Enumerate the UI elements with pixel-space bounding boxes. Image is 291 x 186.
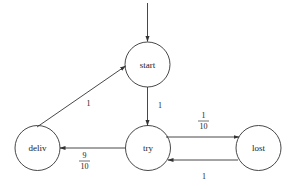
edge-label-try-deliv-den: 10: [81, 162, 89, 171]
markov-chain-diagram: start try deliv lost 1 1 10 1 9 10 1: [0, 0, 291, 186]
state-label-start: start: [140, 60, 156, 70]
state-label-try: try: [143, 143, 153, 153]
edge-label-deliv-start: 1: [87, 99, 91, 108]
edge-label-try-deliv-num: 9: [83, 151, 87, 160]
edge-label-try-lost-den: 10: [200, 122, 208, 131]
state-label-deliv: deliv: [29, 143, 47, 153]
edge-label-start-try: 1: [158, 101, 162, 110]
edge-label-lost-try: 1: [202, 172, 206, 181]
edge-label-try-lost-num: 1: [202, 111, 206, 120]
edge-deliv-start: [37, 66, 126, 127]
state-label-lost: lost: [252, 143, 266, 153]
